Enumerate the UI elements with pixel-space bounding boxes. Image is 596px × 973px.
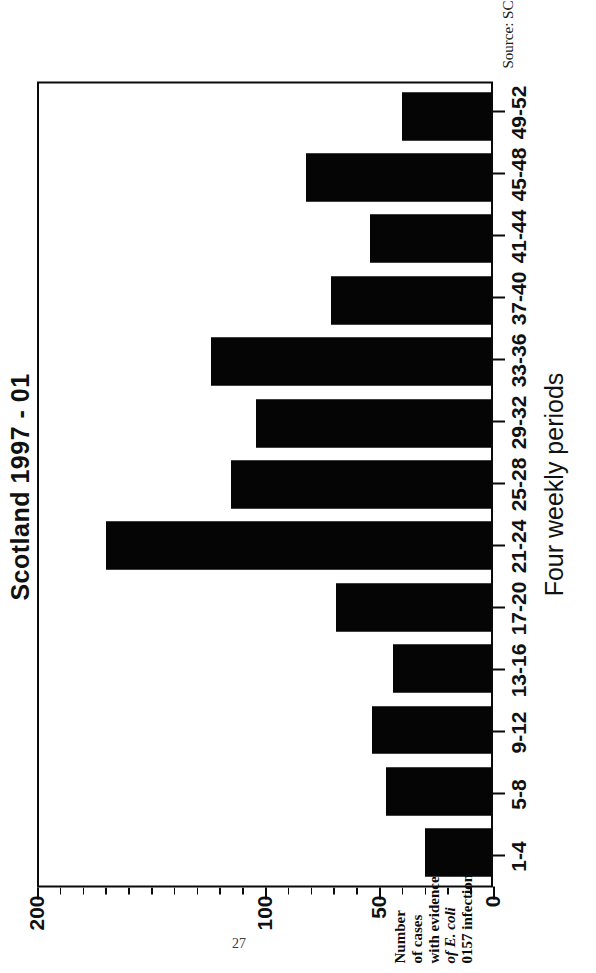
bar xyxy=(402,92,491,140)
category-axis-tick xyxy=(493,730,505,732)
value-axis-minor-tick xyxy=(219,887,221,894)
category-axis-label: 45-48 xyxy=(507,143,541,205)
category-axis-tick xyxy=(493,172,505,174)
value-axis-minor-tick xyxy=(174,887,176,894)
value-axis-major-tick xyxy=(37,886,39,899)
value-axis-minor-tick xyxy=(151,887,153,894)
category-axis-label: 37-40 xyxy=(507,267,541,329)
source-note: Source: SCIEH xyxy=(500,0,517,68)
value-axis-minor-tick xyxy=(242,887,244,894)
value-axis-major-tick xyxy=(493,886,495,899)
category-axis-label: 41-44 xyxy=(507,205,541,267)
category-axis-tick xyxy=(493,668,505,670)
value-axis-major-tick xyxy=(265,886,267,899)
bar-slot xyxy=(39,392,491,453)
category-axis-tick xyxy=(493,544,505,546)
value-axis-minor-tick xyxy=(197,887,199,894)
category-axis-tick xyxy=(493,110,505,112)
category-axis-label: 21-24 xyxy=(507,515,541,577)
value-axis-minor-tick xyxy=(333,887,335,894)
category-axis-label: 5-8 xyxy=(507,763,541,825)
bar-slot xyxy=(39,85,491,146)
category-axis-tick xyxy=(493,792,505,794)
value-axis-major-tick xyxy=(379,886,381,899)
y-axis-title-line-5: 0157 infection xyxy=(459,633,476,963)
category-axis-tick xyxy=(493,606,505,608)
value-axis-minor-tick xyxy=(128,887,130,894)
category-axis-ticks xyxy=(493,81,507,887)
bar-slot xyxy=(39,269,491,330)
bar-slot xyxy=(39,576,491,637)
y-axis-title: Number of cases with evidence of E. coli… xyxy=(392,633,476,963)
category-axis-label: 49-52 xyxy=(507,81,541,143)
category-axis-tick xyxy=(493,234,505,236)
bar-slot xyxy=(39,330,491,391)
category-axis-label: 1-4 xyxy=(507,825,541,887)
value-axis-label: 100 xyxy=(253,895,277,930)
bar-slot xyxy=(39,515,491,576)
figure-page: Scotland 1997 - 01 050100200 1-45-89-121… xyxy=(0,0,596,973)
category-axis-labels: 1-45-89-1213-1617-2021-2425-2829-3233-36… xyxy=(507,81,541,887)
category-axis-label: 29-32 xyxy=(507,391,541,453)
category-axis-tick xyxy=(493,854,505,856)
category-axis-label: 17-20 xyxy=(507,577,541,639)
value-axis-minor-tick xyxy=(311,887,313,894)
category-axis-tick xyxy=(493,420,505,422)
y-axis-title-line-4-italic: of E. coli xyxy=(442,633,459,963)
y-axis-title-line-3: with evidence xyxy=(426,633,443,963)
bar-slot xyxy=(39,208,491,269)
category-axis-label: 9-12 xyxy=(507,701,541,763)
figure-title: Scotland 1997 - 01 xyxy=(6,0,35,973)
bar xyxy=(211,337,491,385)
bar-slot xyxy=(39,453,491,514)
category-axis-tick xyxy=(493,358,505,360)
bar xyxy=(331,276,491,324)
bar xyxy=(106,521,491,569)
bar xyxy=(370,214,491,262)
value-axis-minor-tick xyxy=(105,887,107,894)
bar xyxy=(306,153,491,201)
y-axis-title-line-1: Number xyxy=(392,633,409,963)
bar-slot xyxy=(39,146,491,207)
bar xyxy=(231,460,491,508)
category-axis-label: 13-16 xyxy=(507,639,541,701)
category-axis-label: 25-28 xyxy=(507,453,541,515)
category-axis-tick xyxy=(493,296,505,298)
value-axis-minor-tick xyxy=(356,887,358,894)
value-axis-minor-tick xyxy=(83,887,85,894)
value-axis-minor-tick xyxy=(288,887,290,894)
category-axis-tick xyxy=(493,482,505,484)
bar xyxy=(256,399,491,447)
value-axis-label: 200 xyxy=(25,895,49,930)
page-number: 27 xyxy=(232,936,246,952)
bar xyxy=(336,583,491,631)
y-axis-title-line-2: of cases xyxy=(409,633,426,963)
value-axis-minor-tick xyxy=(60,887,62,894)
rotated-figure-stage: Scotland 1997 - 01 050100200 1-45-89-121… xyxy=(0,0,596,973)
x-axis-title: Four weekly periods xyxy=(540,81,569,887)
category-axis-label: 33-36 xyxy=(507,329,541,391)
